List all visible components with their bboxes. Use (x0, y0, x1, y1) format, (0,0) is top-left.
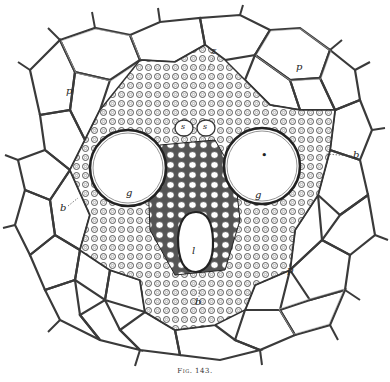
label-p-right: p (287, 265, 293, 275)
vascular-bundle-illustration (0, 0, 390, 382)
label-s-left: s (181, 123, 185, 131)
label-s-right: s (203, 123, 207, 131)
label-b-bottom: b (195, 297, 201, 307)
label-p-top-left: p (66, 86, 72, 96)
label-g-right: g (255, 190, 261, 200)
label-z-top: z (211, 46, 216, 56)
label-b-left: b (60, 203, 66, 213)
label-g-left: g (126, 188, 132, 198)
label-p-top-right: p (296, 62, 302, 72)
figure-caption: Fig. 143. (0, 367, 390, 375)
lacuna (178, 212, 213, 272)
label-b-right: b (353, 150, 359, 160)
vessel-marker: • (261, 150, 268, 161)
label-l-center: l (192, 246, 195, 256)
